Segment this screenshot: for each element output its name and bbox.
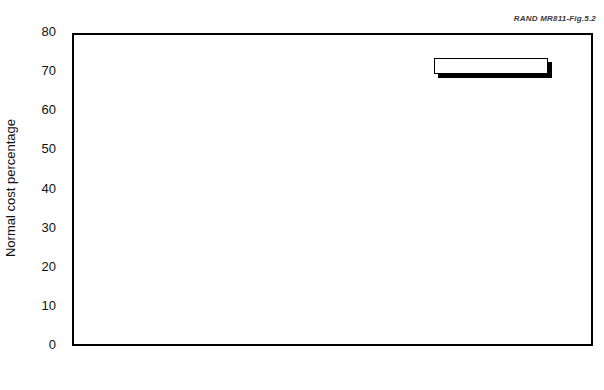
figure-bar-chart: RAND MR811-Fig.5.2 Normal cost percentag… <box>0 0 604 390</box>
y-tick-label: 20 <box>42 259 56 274</box>
y-axis-title: Normal cost percentage <box>3 68 18 308</box>
plot-area <box>72 33 593 346</box>
y-tick-label: 30 <box>42 220 56 235</box>
y-tick-label: 50 <box>42 141 56 156</box>
y-tick-label: 10 <box>42 298 56 313</box>
legend <box>434 58 548 74</box>
y-tick-label: 60 <box>42 102 56 117</box>
y-tick-label: 80 <box>42 24 56 39</box>
y-tick-label: 40 <box>42 181 56 196</box>
y-tick-label: 70 <box>42 63 56 78</box>
source-note: RAND MR811-Fig.5.2 <box>514 14 596 23</box>
y-tick-label: 0 <box>49 337 56 352</box>
